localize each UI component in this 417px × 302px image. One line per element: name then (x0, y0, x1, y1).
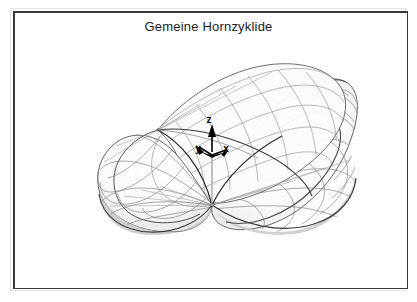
plot-area: z y x (0, 0, 417, 302)
y-axis-label: y (195, 143, 201, 154)
x-axis-label: x (223, 143, 229, 154)
horn-cyclide-surface: z y x (0, 0, 417, 302)
figure-root: Gemeine Hornzyklide (0, 0, 417, 302)
z-axis-label: z (207, 114, 212, 125)
